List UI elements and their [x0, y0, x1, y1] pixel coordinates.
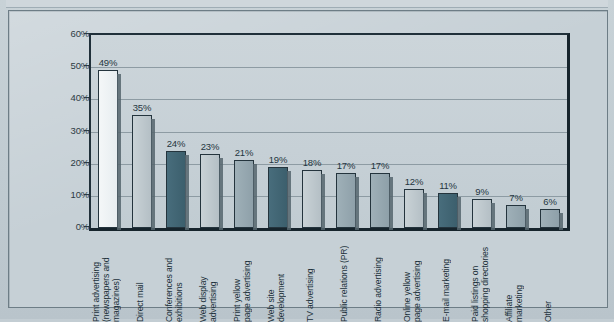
x-axis-label: Print advertising (newspapers and magazi…: [89, 230, 123, 322]
y-axis-tick-label: 50%: [45, 60, 89, 71]
bar-column[interactable]: [268, 167, 287, 228]
bar-value-label: 17%: [337, 160, 355, 171]
bar[interactable]: [302, 170, 321, 228]
bar-value-label: 49%: [99, 57, 117, 68]
x-axis-label-text: Affiliate marketing: [504, 230, 524, 322]
bar[interactable]: [132, 115, 151, 228]
bar[interactable]: [540, 209, 559, 228]
x-axis-label: E-mail marketing: [429, 230, 463, 322]
bar[interactable]: [234, 160, 253, 228]
bar-value-label: 12%: [405, 176, 423, 187]
x-axis-label-text: Web display advertising: [198, 230, 218, 322]
x-axis-label-text: Direct mail: [135, 230, 145, 322]
x-axis-label: Web site development: [259, 230, 293, 322]
x-axis-label-text: Radio advertising: [373, 230, 383, 322]
x-axis-label-text: Paid listings on shopping directories: [470, 230, 490, 322]
bar-value-label: 19%: [269, 154, 287, 165]
bar[interactable]: [370, 173, 389, 228]
x-axis-label-text: Print yellow page advertising: [232, 230, 252, 322]
y-axis-tick-label: 60%: [45, 28, 89, 39]
y-axis-tick-label: 0%: [45, 221, 89, 232]
plot-area: 49%35%24%23%21%19%18%17%17%12%11%9%7%6%: [89, 33, 570, 231]
x-axis-label: Online yellow page advertising: [395, 230, 429, 322]
x-axis-label: Affiliate marketing: [497, 230, 531, 322]
bar-value-label: 18%: [303, 157, 321, 168]
bar-value-label: 7%: [509, 192, 522, 203]
bar[interactable]: [404, 189, 423, 228]
x-axis-label: Direct mail: [123, 230, 157, 322]
x-axis-label: Web display advertising: [191, 230, 225, 322]
top-edge-strip: [6, 0, 608, 8]
bar[interactable]: [98, 70, 117, 228]
bar-value-label: 35%: [133, 102, 151, 113]
bar-column[interactable]: [98, 70, 117, 228]
bar-column[interactable]: [302, 170, 321, 228]
x-axis-label: Print yellow page advertising: [225, 230, 259, 322]
x-axis-label: Radio advertising: [361, 230, 395, 322]
bar-column[interactable]: [404, 189, 423, 228]
bar-column[interactable]: [200, 154, 219, 228]
bar-value-label: 21%: [235, 147, 253, 158]
bar-value-label: 23%: [201, 141, 219, 152]
bar-value-label: 6%: [543, 196, 556, 207]
x-axis-label-text: Public relations (PR): [339, 230, 349, 322]
bar-column[interactable]: [234, 160, 253, 228]
chart-panel: 0%10%20%30%40%50%60% 49%35%24%23%21%19%1…: [8, 10, 608, 308]
x-axis-label-text: Print advertising (newspapers and magazi…: [91, 230, 121, 322]
bar[interactable]: [438, 193, 457, 228]
bar-column[interactable]: [540, 209, 559, 228]
bar[interactable]: [472, 199, 491, 228]
bar-value-label: 24%: [167, 138, 185, 149]
x-axis-label: Other: [531, 230, 565, 322]
bar[interactable]: [166, 151, 185, 228]
y-axis: 0%10%20%30%40%50%60%: [35, 33, 89, 226]
bar-value-label: 17%: [371, 160, 389, 171]
x-axis-label-text: Conferences and exhibitions: [164, 230, 184, 322]
y-axis-tick-label: 10%: [45, 188, 89, 199]
bar[interactable]: [336, 173, 355, 228]
y-axis-tick-label: 40%: [45, 92, 89, 103]
y-axis-tick-label: 30%: [45, 124, 89, 135]
x-axis-label: TV advertising: [293, 230, 327, 322]
bar[interactable]: [200, 154, 219, 228]
x-axis-label-text: Web site development: [266, 230, 286, 322]
y-axis-tick-label: 20%: [45, 156, 89, 167]
bar-column[interactable]: [132, 115, 151, 228]
bar[interactable]: [268, 167, 287, 228]
bar-column[interactable]: [506, 205, 525, 228]
bar-series: 49%35%24%23%21%19%18%17%17%12%11%9%7%6%: [91, 35, 567, 228]
x-axis-category-labels: Print advertising (newspapers and magazi…: [89, 230, 565, 322]
bar-value-label: 11%: [439, 180, 457, 191]
x-axis-label-text: E-mail marketing: [441, 230, 451, 322]
x-axis-label-text: TV advertising: [305, 230, 315, 322]
bar-column[interactable]: [336, 173, 355, 228]
x-axis-label: Public relations (PR): [327, 230, 361, 322]
x-axis-label-text: Other: [543, 230, 553, 322]
bar[interactable]: [506, 205, 525, 228]
x-axis-label-text: Online yellow page advertising: [402, 230, 422, 322]
bar-value-label: 9%: [475, 186, 488, 197]
bar-column[interactable]: [370, 173, 389, 228]
x-axis-label: Paid listings on shopping directories: [463, 230, 497, 322]
bar-column[interactable]: [438, 193, 457, 228]
x-axis-label: Conferences and exhibitions: [157, 230, 191, 322]
bar-column[interactable]: [472, 199, 491, 228]
bar-column[interactable]: [166, 151, 185, 228]
